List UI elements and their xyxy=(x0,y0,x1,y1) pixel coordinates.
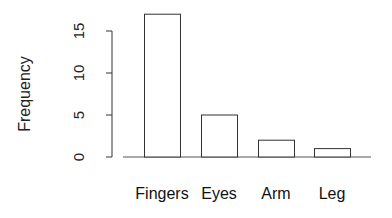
category-label-arm: Arm xyxy=(261,185,290,202)
y-tick-label: 5 xyxy=(70,111,87,119)
y-tick-label: 10 xyxy=(70,65,87,82)
category-labels: FingersEyesArmLeg xyxy=(135,185,345,202)
category-label-leg: Leg xyxy=(319,185,346,202)
bar-arm xyxy=(259,140,295,157)
bar-leg xyxy=(315,149,351,157)
y-tick-label: 0 xyxy=(70,153,87,161)
bar-chart: Frequency 051015 FingersEyesArmLeg xyxy=(0,0,392,218)
category-label-fingers: Fingers xyxy=(135,185,188,202)
bars xyxy=(145,14,351,157)
y-axis: 051015 xyxy=(70,23,112,162)
bar-eyes xyxy=(202,115,238,157)
bar-fingers xyxy=(145,14,181,157)
category-label-eyes: Eyes xyxy=(201,185,237,202)
y-axis-label: Frequency xyxy=(16,56,33,132)
y-tick-label: 15 xyxy=(70,23,87,40)
